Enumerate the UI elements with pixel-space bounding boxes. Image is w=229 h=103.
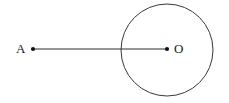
geometry-canvas bbox=[0, 0, 229, 103]
point-O-dot bbox=[165, 47, 169, 51]
point-A-dot bbox=[31, 47, 35, 51]
point-O-label: O bbox=[174, 42, 183, 55]
geometry-figure: A O bbox=[0, 0, 229, 103]
point-A-label: A bbox=[16, 42, 25, 55]
